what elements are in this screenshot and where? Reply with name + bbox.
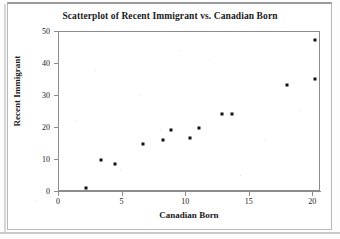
- scan-speckle: [265, 140, 266, 141]
- data-point: [285, 84, 288, 87]
- x-axis-tick: [185, 192, 186, 196]
- y-axis-tick: [54, 63, 58, 64]
- data-point: [169, 128, 172, 131]
- y-axis-tick-label: 0: [10, 187, 50, 196]
- scan-speckle: [75, 120, 76, 121]
- y-axis-tick: [54, 95, 58, 96]
- data-point: [162, 138, 165, 141]
- data-point: [189, 136, 192, 139]
- scan-speckle: [300, 110, 301, 111]
- scan-speckle: [120, 170, 121, 171]
- scan-speckle: [210, 60, 211, 61]
- x-axis-tick: [249, 192, 250, 196]
- data-point: [99, 159, 102, 162]
- scan-speckle: [140, 95, 141, 96]
- data-point: [220, 112, 223, 115]
- x-axis-tick-label: 10: [170, 197, 200, 206]
- data-point: [84, 186, 87, 189]
- x-axis-tick-label: 0: [43, 197, 73, 206]
- scatterplot-figure: Scatterplot of Recent Immigrant vs. Cana…: [0, 0, 340, 239]
- data-point: [197, 126, 200, 129]
- data-points-layer: [59, 32, 319, 190]
- x-axis-tick-label: 15: [234, 197, 264, 206]
- scan-speckle: [180, 50, 181, 51]
- y-axis-tick: [54, 127, 58, 128]
- y-axis-tick-label: 20: [10, 123, 50, 132]
- page-bottom-shadow: [0, 232, 340, 234]
- scan-speckle: [240, 175, 241, 176]
- y-axis-tick-label: 10: [10, 155, 50, 164]
- scan-speckle: [95, 70, 96, 71]
- y-axis-tick-label: 50: [10, 27, 50, 36]
- scan-speckle: [310, 200, 311, 201]
- y-axis-tick-label: 30: [10, 91, 50, 100]
- y-axis-tick-label: 40: [10, 59, 50, 68]
- x-axis-line: [58, 191, 321, 192]
- data-point: [313, 39, 316, 42]
- page-edge-shadow: [4, 4, 6, 232]
- x-axis-tick: [122, 192, 123, 196]
- y-axis-tick: [54, 159, 58, 160]
- data-point: [113, 162, 116, 165]
- scan-speckle: [160, 130, 161, 131]
- scan-speckle: [35, 200, 36, 201]
- y-axis-tick: [54, 31, 58, 32]
- data-point: [230, 113, 233, 116]
- chart-title: Scatterplot of Recent Immigrant vs. Cana…: [0, 11, 340, 21]
- x-axis-tick-label: 5: [107, 197, 137, 206]
- data-point: [313, 78, 316, 81]
- x-axis-tick: [312, 192, 313, 196]
- x-axis-tick: [58, 192, 59, 196]
- x-axis-title: Canadian Born: [58, 210, 320, 220]
- plot-area: [58, 31, 320, 191]
- x-axis-tick-label: 20: [297, 197, 327, 206]
- data-point: [141, 143, 144, 146]
